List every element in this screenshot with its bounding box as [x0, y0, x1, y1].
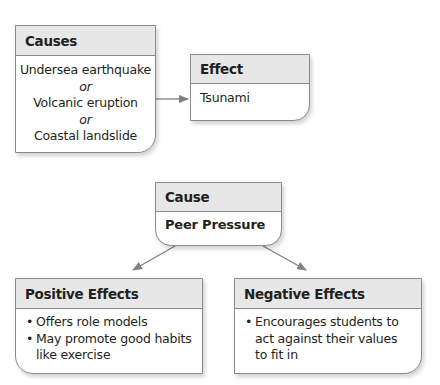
effect-body: Tsunami	[191, 84, 309, 107]
positive-effects-title: Positive Effects	[25, 286, 138, 302]
positive-effects-list: Offers role models May promote good habi…	[16, 309, 202, 364]
or-connector: or	[16, 112, 155, 129]
cause-item: Coastal landslide	[16, 128, 155, 145]
effect-box: Effect Tsunami	[190, 54, 310, 121]
positive-effect-item: Offers role models	[26, 314, 194, 331]
causes-box: Causes Undersea earthquake or Volcanic e…	[15, 25, 156, 153]
cause-header: Cause	[156, 183, 281, 212]
cause-box: Cause Peer Pressure	[155, 182, 282, 246]
cause-item: Undersea earthquake	[16, 62, 155, 79]
cause-title: Cause	[165, 189, 209, 205]
arrow-cause-to-negative	[263, 246, 306, 270]
causes-list: Undersea earthquake or Volcanic eruption…	[16, 56, 155, 145]
positive-effect-item: May promote good habits like exercise	[26, 331, 194, 364]
effect-text: Tsunami	[200, 90, 250, 105]
effect-title: Effect	[200, 61, 243, 77]
causes-title: Causes	[25, 33, 77, 49]
cause-body: Peer Pressure	[156, 212, 281, 234]
cause-text: Peer Pressure	[165, 217, 265, 232]
or-connector: or	[16, 79, 155, 96]
effect-header: Effect	[191, 55, 309, 84]
negative-effects-header: Negative Effects	[235, 279, 421, 309]
cause-item: Volcanic eruption	[16, 95, 155, 112]
positive-effects-header: Positive Effects	[16, 279, 202, 309]
negative-effect-item: Encourages students to act against their…	[245, 314, 405, 364]
negative-effects-box: Negative Effects Encourages students to …	[234, 278, 422, 374]
positive-effects-box: Positive Effects Offers role models May …	[15, 278, 203, 374]
negative-effects-title: Negative Effects	[244, 286, 365, 302]
arrow-cause-to-positive	[133, 246, 175, 270]
negative-effects-list: Encourages students to act against their…	[235, 309, 421, 364]
causes-header: Causes	[16, 26, 155, 56]
